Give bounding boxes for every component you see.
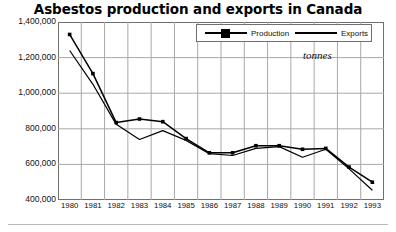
data-point-marker — [371, 180, 375, 184]
footer-divider — [8, 224, 388, 225]
chart-legend: Production Exports — [196, 24, 372, 42]
x-axis: 1980198119821983198419851986198719881989… — [58, 201, 384, 215]
chart-figure: Asbestos production and exports in Canad… — [0, 0, 396, 232]
exports-line-icon — [295, 28, 337, 38]
data-point-marker — [138, 117, 142, 121]
y-axis-label: 800,000 — [0, 123, 56, 133]
legend-entry-production: Production — [205, 25, 289, 41]
y-axis-label: 1,200,000 — [0, 52, 56, 62]
y-axis: 400,000600,000800,0001,000,0001,200,0001… — [0, 0, 56, 232]
legend-entry-exports: Exports — [295, 25, 368, 41]
data-point-marker — [161, 120, 165, 124]
x-axis-label: 1993 — [357, 201, 387, 210]
chart-title: Asbestos production and exports in Canad… — [0, 1, 396, 17]
y-axis-label: 400,000 — [0, 194, 56, 204]
units-annotation: tonnes — [303, 49, 332, 61]
y-axis-label: 1,000,000 — [0, 87, 56, 97]
plot-area — [58, 22, 384, 200]
data-point-marker — [301, 147, 305, 151]
production-line-marker-icon — [205, 28, 247, 38]
data-point-marker — [231, 151, 235, 155]
data-point-marker — [254, 144, 258, 148]
data-point-marker — [68, 33, 72, 37]
legend-label-exports: Exports — [341, 29, 368, 38]
y-axis-label: 600,000 — [0, 158, 56, 168]
y-axis-label: 1,400,000 — [0, 16, 56, 26]
data-point-marker — [91, 72, 95, 76]
line-chart-svg — [58, 22, 384, 200]
legend-label-production: Production — [251, 29, 289, 38]
